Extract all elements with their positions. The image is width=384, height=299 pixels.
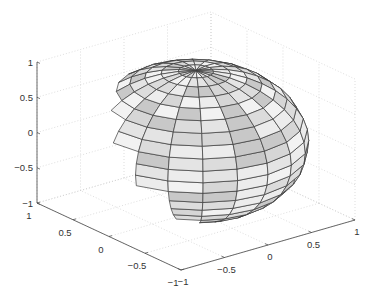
z-tick-label: 0.5 xyxy=(20,92,33,103)
x-tick-label: −0.5 xyxy=(217,264,236,275)
z-tick-label: −0.5 xyxy=(14,162,33,173)
y-tick-label: 1 xyxy=(26,210,31,221)
sphere-face xyxy=(176,107,201,120)
sphere-face xyxy=(180,96,201,108)
sphere-face xyxy=(168,169,203,182)
x-tick-label: 0 xyxy=(267,251,272,262)
x-axis-ticks: −1−0.500.51 xyxy=(178,219,360,287)
sphere-face xyxy=(168,157,203,171)
z-tick-label: 0 xyxy=(28,127,33,138)
z-tick-label: −1 xyxy=(22,198,33,209)
y-tick-label: −0.5 xyxy=(128,260,147,271)
sphere-face xyxy=(169,145,203,159)
plot-canvas: −1−0.500.51 10.50−0.5−1 10.50−0.5−1 xyxy=(0,0,384,299)
sphere-surface-plot: −1−0.500.51 10.50−0.5−1 10.50−0.5−1 xyxy=(0,0,384,299)
sphere-face xyxy=(173,119,202,133)
x-tick-label: −1 xyxy=(178,276,189,287)
x-tick-label: 0.5 xyxy=(307,239,320,250)
sphere-face xyxy=(203,157,237,171)
z-tick-label: 1 xyxy=(28,57,33,68)
x-tick-label: 1 xyxy=(354,226,359,237)
z-axis-ticks: 10.50−0.5−1 xyxy=(14,57,40,209)
sphere-face xyxy=(171,132,202,146)
sphere-faces xyxy=(111,59,309,223)
y-tick-label: −1 xyxy=(168,277,179,288)
y-tick-label: 0.5 xyxy=(58,227,71,238)
y-tick-label: 0 xyxy=(98,244,103,255)
sphere-face xyxy=(202,132,233,147)
sphere-face xyxy=(201,119,230,133)
sphere-face xyxy=(202,144,235,159)
y-axis-ticks: 10.50−0.5−1 xyxy=(26,202,184,288)
